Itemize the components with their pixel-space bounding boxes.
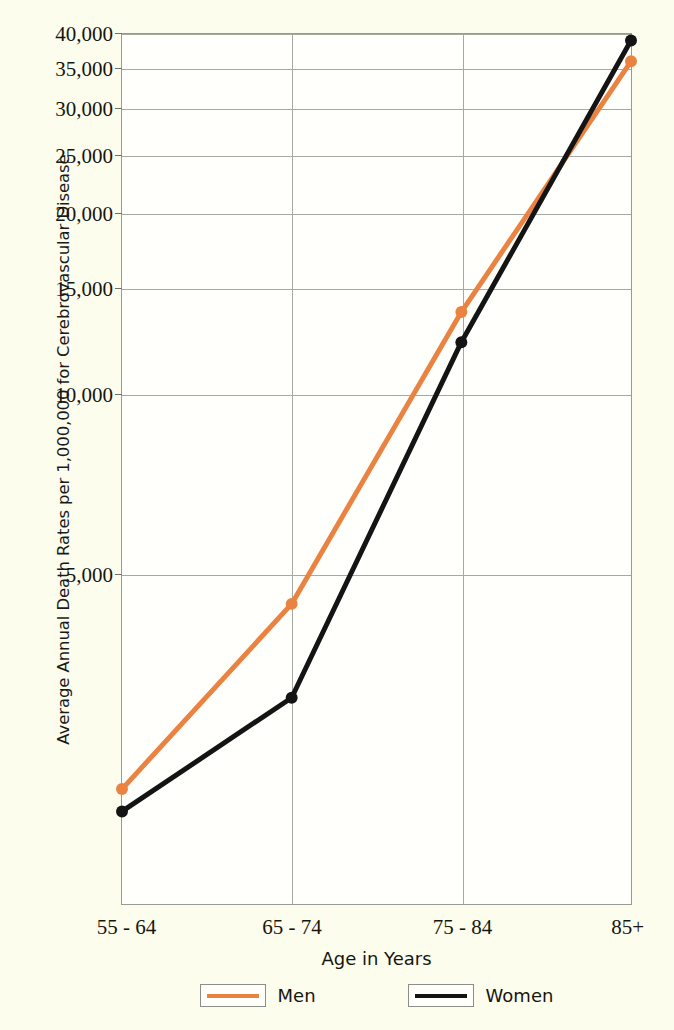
data-point-women-0 [116,805,128,817]
data-point-men-0 [116,783,128,795]
y-tick-mark-20000 [115,213,122,214]
series-line-men [122,61,631,789]
chart-figure: Average Annual Death Rates per 1,000,000… [0,0,674,1030]
legend-swatch-men [200,984,266,1007]
x-tick-label: 75 - 84 [433,915,493,940]
data-point-men-2 [455,306,467,318]
y-tick-label: 40,000 [55,22,113,47]
y-tick-label: 30,000 [55,96,113,121]
y-tick-mark-15000 [115,288,122,289]
legend-line-sample [207,994,259,998]
legend-label: Women [486,985,554,1006]
y-tick-mark-25000 [115,155,122,156]
y-tick-label: 20,000 [55,202,113,227]
x-tick-label: 65 - 74 [262,915,322,940]
x-tick-label: 55 - 64 [97,915,157,940]
y-tick-label: 5,000 [66,562,113,587]
chart-legend: MenWomen [121,984,632,1007]
y-tick-mark-40000 [115,33,122,34]
y-tick-mark-10000 [115,394,122,395]
y-tick-mark-30000 [115,108,122,109]
data-point-women-2 [455,336,467,348]
y-tick-label: 35,000 [55,56,113,81]
data-point-men-3 [625,55,637,67]
data-series-lines [122,34,631,904]
y-tick-mark-35000 [115,68,122,69]
legend-entry-men[interactable]: Men [200,984,316,1007]
legend-entry-women[interactable]: Women [408,984,554,1007]
y-tick-label: 15,000 [55,277,113,302]
y-tick-label: 10,000 [55,382,113,407]
data-point-women-1 [286,692,298,704]
legend-swatch-women [408,984,474,1007]
series-line-women [122,41,631,812]
x-axis-title: Age in Years [121,948,632,969]
legend-line-sample [415,994,467,998]
legend-label: Men [278,985,316,1006]
data-point-women-3 [625,35,637,47]
y-tick-label: 25,000 [55,144,113,169]
x-tick-label: 85+ [611,915,644,940]
y-tick-mark-5000 [115,574,122,575]
data-point-men-1 [286,598,298,610]
plot-area: 5,00010,00015,00020,00025,00030,00035,00… [121,33,632,905]
